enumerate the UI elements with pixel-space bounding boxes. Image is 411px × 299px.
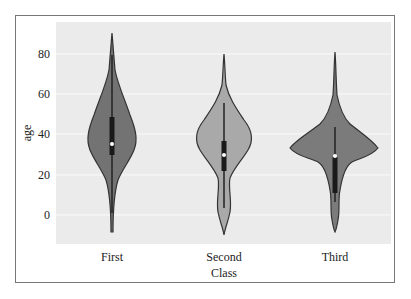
- y-tick: 60: [38, 87, 50, 101]
- y-tick: 20: [38, 168, 50, 182]
- y-axis: 80 60 40 20 0 age: [20, 47, 50, 222]
- x-axis: First Second Third Class: [101, 250, 348, 280]
- y-tick: 0: [44, 208, 50, 222]
- x-axis-label: Class: [211, 266, 237, 280]
- y-tick: 80: [38, 47, 50, 61]
- y-tick: 40: [38, 127, 50, 141]
- x-tick-first: First: [101, 250, 124, 264]
- y-axis-label: age: [20, 125, 34, 142]
- x-tick-second: Second: [206, 250, 241, 264]
- x-tick-third: Third: [322, 250, 349, 264]
- violin-chart: 80 60 40 20 0 age First Second Third Cla…: [0, 0, 411, 299]
